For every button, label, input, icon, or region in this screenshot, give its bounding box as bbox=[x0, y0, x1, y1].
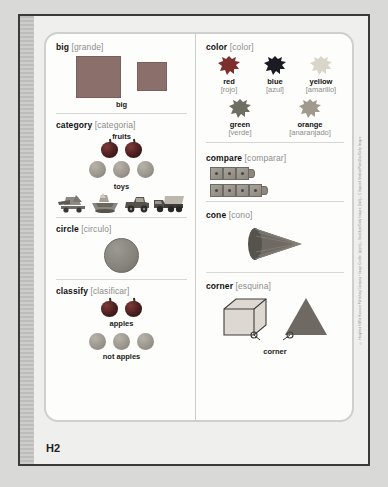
orange-icon bbox=[113, 161, 130, 178]
color-translation: [amarillo] bbox=[299, 86, 343, 94]
section-circle: circle [circulo] bbox=[56, 217, 187, 279]
term-color-translation: [color] bbox=[230, 42, 254, 52]
orange-icon bbox=[89, 333, 106, 350]
color-translation: [anaranjado] bbox=[288, 129, 332, 137]
classify-apple-row bbox=[56, 301, 187, 317]
section-compare: compare [comparar] bbox=[206, 142, 344, 201]
term-cone-label: cone bbox=[206, 210, 226, 220]
category-toys-label: toys bbox=[56, 182, 187, 191]
dump-truck-toy-icon bbox=[153, 193, 185, 213]
category-fruits-label: fruits bbox=[56, 132, 187, 141]
big-square-large bbox=[76, 56, 121, 98]
term-cone-translation: [cono] bbox=[229, 210, 253, 220]
workbook-page: big [grande] big category [categoria] fr… bbox=[18, 14, 370, 466]
classify-not-apples-label: not apples bbox=[56, 352, 187, 361]
cube-icon bbox=[249, 184, 262, 197]
apple-icon bbox=[101, 142, 118, 158]
color-swatch-orange: orange [anaranjado] bbox=[288, 98, 332, 137]
cube-shape bbox=[220, 295, 272, 345]
orange-icon bbox=[89, 161, 106, 178]
apple-icon bbox=[101, 301, 118, 317]
page-label: H2 bbox=[46, 442, 60, 454]
color-translation: [rojo] bbox=[207, 86, 251, 94]
paint-blob-icon bbox=[218, 55, 241, 76]
orange-icon bbox=[137, 333, 154, 350]
apple-icon bbox=[125, 142, 142, 158]
term-circle-translation: [circulo] bbox=[81, 224, 111, 234]
section-classify: classify [clasificar] apples not apples bbox=[56, 279, 187, 366]
compare-cube-row-top bbox=[210, 167, 344, 180]
paint-blob-icon bbox=[310, 55, 333, 76]
cube-icon bbox=[223, 167, 236, 180]
classify-orange-row bbox=[56, 333, 187, 350]
cone-shape bbox=[206, 224, 344, 268]
term-circle-label: circle bbox=[56, 224, 79, 234]
term-big: big [grande] bbox=[56, 42, 187, 52]
car-toy-icon bbox=[122, 193, 152, 213]
term-corner-translation: [esquina] bbox=[236, 281, 271, 291]
compare-cube-row-bottom bbox=[210, 184, 344, 197]
term-compare: compare [comparar] bbox=[206, 153, 344, 163]
classify-apples-label: apples bbox=[56, 319, 187, 328]
term-category-label: category bbox=[56, 120, 92, 130]
paint-blob-icon bbox=[299, 98, 322, 119]
cube-connector bbox=[249, 169, 255, 178]
apple-icon bbox=[125, 301, 142, 317]
big-squares bbox=[56, 56, 187, 98]
orange-icon bbox=[137, 161, 154, 178]
page-spine bbox=[20, 16, 34, 464]
color-swatch-yellow: yellow [amarillo] bbox=[299, 55, 343, 94]
cube-icon bbox=[236, 167, 249, 180]
term-corner-label: corner bbox=[206, 281, 233, 291]
category-orange-row bbox=[56, 161, 187, 178]
cube-icon bbox=[210, 184, 223, 197]
big-square-small bbox=[137, 62, 167, 91]
paint-blob-icon bbox=[229, 98, 252, 119]
color-translation: [verde] bbox=[218, 129, 262, 137]
term-corner: corner [esquina] bbox=[206, 281, 344, 291]
section-cone: cone [cono] bbox=[206, 201, 344, 272]
copyright-credit: © Houghton Mifflin Harcourt Publishing C… bbox=[359, 136, 362, 343]
circle-shape bbox=[104, 238, 139, 273]
color-swatch-row-two: green [verde] orange [anaranjado] bbox=[206, 98, 344, 137]
right-column: color [color] red [rojo] bbox=[195, 34, 352, 420]
term-category-translation: [categoria] bbox=[95, 120, 136, 130]
cube-icon bbox=[223, 184, 236, 197]
term-compare-label: compare bbox=[206, 153, 242, 163]
boat-toy-icon bbox=[90, 193, 120, 213]
term-big-label: big bbox=[56, 42, 69, 52]
glossary-card: big [grande] big category [categoria] fr… bbox=[44, 32, 354, 422]
orange-icon bbox=[113, 333, 130, 350]
color-swatch-green: green [verde] bbox=[218, 98, 262, 137]
term-cone: cone [cono] bbox=[206, 210, 344, 220]
triangle-shape bbox=[282, 295, 330, 345]
big-caption: big bbox=[56, 100, 187, 109]
section-color: color [color] red [rojo] bbox=[206, 42, 344, 142]
term-classify-label: classify bbox=[56, 286, 88, 296]
section-category: category [categoria] fruits toys bbox=[56, 113, 187, 217]
cube-connector bbox=[262, 186, 268, 195]
category-toys-row bbox=[56, 193, 187, 213]
term-classify-translation: [clasificar] bbox=[90, 286, 129, 296]
section-big: big [grande] big bbox=[56, 42, 187, 113]
term-color-label: color bbox=[206, 42, 227, 52]
color-swatch-blue: blue [azul] bbox=[253, 55, 297, 94]
left-column: big [grande] big category [categoria] fr… bbox=[46, 34, 195, 420]
corner-caption: corner bbox=[206, 347, 344, 356]
term-big-translation: [grande] bbox=[72, 42, 104, 52]
color-swatch-red: red [rojo] bbox=[207, 55, 251, 94]
term-compare-translation: [comparar] bbox=[245, 153, 287, 163]
paint-blob-icon bbox=[264, 55, 287, 76]
corner-shapes bbox=[206, 295, 344, 345]
term-color: color [color] bbox=[206, 42, 344, 52]
section-corner: corner [esquina] bbox=[206, 272, 344, 360]
color-swatch-row-one: red [rojo] blue [azul] bbox=[206, 55, 344, 94]
cube-icon bbox=[210, 167, 223, 180]
airplane-toy-icon bbox=[58, 193, 89, 213]
term-classify: classify [clasificar] bbox=[56, 286, 187, 296]
cube-icon bbox=[236, 184, 249, 197]
color-translation: [azul] bbox=[253, 86, 297, 94]
term-circle: circle [circulo] bbox=[56, 224, 187, 234]
term-category: category [categoria] bbox=[56, 120, 187, 130]
category-apple-row bbox=[56, 142, 187, 158]
